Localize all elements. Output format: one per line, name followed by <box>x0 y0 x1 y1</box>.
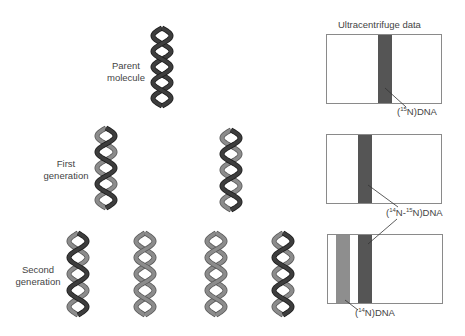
centrifuge-tube-parent <box>326 34 442 104</box>
second-gen-dna-helix-1 <box>66 230 90 318</box>
label-sup: 15 <box>406 207 413 213</box>
n14-dna-label: (14N)DNA <box>355 307 395 319</box>
label-sup: 14 <box>389 207 396 213</box>
second-gen-dna-helix-3 <box>204 230 228 318</box>
label-sup: 15 <box>400 106 407 112</box>
label-line: Parent <box>104 60 148 72</box>
label-part: N)DNA <box>413 207 443 218</box>
n15-dna-label: (15N)DNA <box>397 106 437 118</box>
label-part: N)DNA <box>407 106 437 117</box>
parent-dna-helix <box>150 25 174 109</box>
n14-dna-band <box>336 235 350 303</box>
first-generation-label: First generation <box>40 158 92 182</box>
second-generation-label: Second generation <box>12 264 64 288</box>
second-gen-dna-helix-4 <box>271 230 295 318</box>
first-gen-dna-helix-1 <box>94 125 118 211</box>
label-part: N)DNA <box>365 307 395 318</box>
label-line: Second <box>12 264 64 276</box>
second-gen-dna-helix-2 <box>133 230 157 318</box>
first-gen-dna-helix-2 <box>219 127 243 213</box>
label-sup: 14 <box>358 307 365 313</box>
label-line: molecule <box>104 72 148 84</box>
hybrid-dna-band <box>358 135 372 203</box>
ultracentrifuge-title: Ultracentrifuge data <box>338 19 421 31</box>
parent-molecule-label: Parent molecule <box>104 60 148 84</box>
centrifuge-tube-first-generation <box>326 134 442 204</box>
hybrid-dna-label: (14N-15N)DNA <box>386 207 443 219</box>
label-line: generation <box>40 170 92 182</box>
hybrid-dna-band <box>358 235 372 303</box>
label-part: N- <box>396 207 406 218</box>
centrifuge-tube-second-generation <box>327 234 443 304</box>
n15-dna-band <box>378 35 392 103</box>
label-line: generation <box>12 276 64 288</box>
label-line: First <box>40 158 92 170</box>
